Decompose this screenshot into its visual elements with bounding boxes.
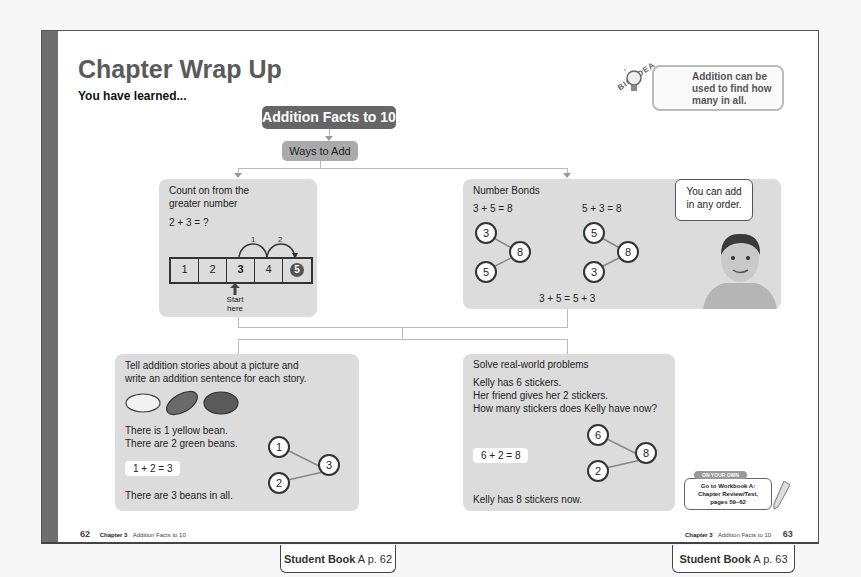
panel-heading: Count on from the greater number xyxy=(169,184,249,210)
big-idea-callout: Addition can be used to find how many in… xyxy=(612,57,784,117)
boy-photo xyxy=(703,225,777,309)
arrow-down-icon xyxy=(563,173,571,178)
heading-line: greater number xyxy=(169,197,249,210)
bond-whole: 3 xyxy=(318,454,340,476)
number-cell: 4 xyxy=(255,259,283,282)
panel-number-bonds: Number Bonds 3 + 5 = 8 5 + 3 = 8 3 5 8 5… xyxy=(463,179,781,309)
pencil-icon xyxy=(770,481,790,511)
connector-line xyxy=(238,327,568,328)
connector-line xyxy=(238,317,239,327)
story-text: There is 1 yellow bean. There are 2 gree… xyxy=(125,424,238,450)
equation: 2 + 3 = ? xyxy=(169,217,208,228)
label-line: Start xyxy=(222,295,248,304)
speech-line: in any order. xyxy=(676,198,752,211)
tag-letter: A xyxy=(358,553,365,565)
chapter-label: Chapter 3 xyxy=(685,532,713,538)
beans-picture xyxy=(125,388,240,418)
big-idea-line: many in all. xyxy=(692,95,776,107)
problem-text: Kelly has 6 stickers. Her friend gives h… xyxy=(473,376,657,415)
page-spine xyxy=(42,31,58,542)
panel-count-on: Count on from the greater number 2 + 3 =… xyxy=(159,179,317,317)
number-cell: 1 xyxy=(171,259,199,282)
answer-circle: 5 xyxy=(290,263,304,277)
tag-page: p. 63 xyxy=(763,553,787,565)
number-cell: 2 xyxy=(199,259,227,282)
story-line: There are 2 green beans. xyxy=(125,437,238,450)
big-idea-box: Addition can be used to find how many in… xyxy=(652,65,784,111)
number-line: 1 2 3 4 5 xyxy=(169,257,313,284)
speech-bubble: You can add in any order. xyxy=(675,179,753,221)
page-number: 62 xyxy=(80,529,90,539)
tag-book: Student Book xyxy=(284,553,356,565)
footer-left: 62 Chapter 3 Addition Facts to 10 xyxy=(80,529,186,539)
on-your-own-callout: Go to Workbook A: Chapter Review/Test, p… xyxy=(682,471,792,513)
on-your-own-tag: ON YOUR OWN xyxy=(694,471,747,479)
problem-line: How many stickers does Kelly have now? xyxy=(473,402,657,415)
tag-book: Student Book xyxy=(679,553,751,565)
arrow-up-icon xyxy=(230,283,240,295)
lightbulb-icon xyxy=(624,69,644,95)
bond-whole: 8 xyxy=(635,442,657,464)
heading-line: Count on from the xyxy=(169,184,249,197)
commutative-equation: 3 + 5 = 5 + 3 xyxy=(539,293,595,304)
panel-real-world-problems: Solve real-world problems Kelly has 6 st… xyxy=(463,354,675,511)
start-here-label: Start here xyxy=(222,295,248,313)
panel-heading: Tell addition stories about a picture an… xyxy=(125,359,307,385)
bond-part: 2 xyxy=(268,472,290,494)
bond-part: 3 xyxy=(475,222,497,244)
page-title: Chapter Wrap Up xyxy=(78,55,282,84)
bond-part: 5 xyxy=(583,222,605,244)
problem-line: Kelly has 6 stickers. xyxy=(473,376,657,389)
problem-answer: Kelly has 8 stickers now. xyxy=(473,494,582,505)
bond-part: 2 xyxy=(587,460,609,482)
speech-line: You can add xyxy=(676,185,752,198)
bond-part: 6 xyxy=(587,424,609,446)
page-number: 63 xyxy=(783,529,793,539)
bond-part: 3 xyxy=(583,261,605,283)
connector-line xyxy=(238,339,239,354)
hop-arrows: 1 2 xyxy=(229,233,309,259)
number-cell-start: 3 xyxy=(227,259,255,282)
topic-heading: Addition Facts to 10 xyxy=(262,106,396,129)
subtopic-heading: Ways to Add xyxy=(282,141,358,161)
connector-line xyxy=(567,339,568,354)
label-line: here xyxy=(222,304,248,313)
workbook-reference: Go to Workbook A: Chapter Review/Test, p… xyxy=(684,478,772,510)
heading-line: write an addition sentence for each stor… xyxy=(125,372,307,385)
addition-sentence: 6 + 2 = 8 xyxy=(473,448,528,463)
arrow-down-icon xyxy=(234,173,242,178)
number-cell-answer: 5 xyxy=(283,259,311,282)
hop-label: 2 xyxy=(278,235,283,244)
textbook-spread: Chapter Wrap Up You have learned... Addi… xyxy=(41,30,819,544)
hop-label: 1 xyxy=(251,235,256,244)
addition-sentence: 1 + 2 = 3 xyxy=(125,461,180,476)
tag-page: p. 62 xyxy=(368,553,392,565)
student-book-tag-right: Student Book A p. 63 xyxy=(672,545,795,573)
reference-line: Chapter Review/Test, xyxy=(685,490,771,498)
connector-line xyxy=(567,309,568,327)
panel-heading: Solve real-world problems xyxy=(473,359,589,370)
bond-part: 5 xyxy=(475,261,497,283)
chapter-title: Addition Facts to 10 xyxy=(718,532,771,538)
page-subtitle: You have learned... xyxy=(78,89,186,103)
connector-line xyxy=(238,339,568,340)
bond-part: 1 xyxy=(268,436,290,458)
big-idea-line: Addition can be xyxy=(692,71,776,83)
chapter-label: Chapter 3 xyxy=(100,532,128,538)
story-conclusion: There are 3 beans in all. xyxy=(125,490,233,501)
tag-letter: A xyxy=(753,553,760,565)
big-idea-line: used to find how xyxy=(692,83,776,95)
footer-right: Chapter 3 Addition Facts to 10 63 xyxy=(685,529,801,539)
connector-line xyxy=(402,327,403,339)
panel-addition-stories: Tell addition stories about a picture an… xyxy=(115,354,359,511)
reference-line: pages 59–62 xyxy=(685,498,771,506)
bond-whole: 8 xyxy=(509,241,531,263)
problem-line: Her friend gives her 2 stickers. xyxy=(473,389,657,402)
connector-line xyxy=(238,168,568,169)
student-book-tag-left: Student Book A p. 62 xyxy=(280,545,396,573)
bond-whole: 8 xyxy=(617,241,639,263)
chapter-title: Addition Facts to 10 xyxy=(133,532,186,538)
heading-line: Tell addition stories about a picture an… xyxy=(125,359,307,372)
reference-line: Go to Workbook A: xyxy=(685,482,771,490)
story-line: There is 1 yellow bean. xyxy=(125,424,238,437)
